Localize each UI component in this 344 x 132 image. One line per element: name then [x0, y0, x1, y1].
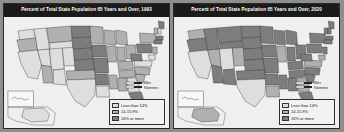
- scale-bar-1993: Miles Kilometers: [124, 79, 164, 92]
- legend-item: Less than 14%: [112, 103, 162, 109]
- legend-label-mid: 14-15.9%: [291, 110, 308, 114]
- scale-bar-2020: Miles Kilometers: [294, 79, 334, 92]
- legend-label-low: Less than 14%: [121, 104, 147, 108]
- legend-label-high: 16% or more: [291, 117, 314, 121]
- map-legend-2020: Less than 14% 14-15.9% 16% or more: [279, 99, 335, 125]
- legend-label-mid: 14-15.9%: [121, 110, 138, 114]
- map-title-bar-1993: Percent of Total State Population 65 Yea…: [4, 4, 169, 17]
- svg-text:Miles: Miles: [144, 81, 152, 85]
- legend-label-high: 16% or more: [121, 117, 144, 121]
- legend-item: 16% or more: [282, 116, 332, 122]
- map-title-1993: Percent of Total State Population 65 Yea…: [21, 8, 152, 13]
- legend-swatch-high: [112, 116, 119, 121]
- legend-item: 14-15.9%: [282, 109, 332, 115]
- legend-swatch-low: [282, 103, 289, 108]
- svg-text:Kilometers: Kilometers: [144, 86, 159, 90]
- legend-item: 14-15.9%: [112, 109, 162, 115]
- map-title-2020: Percent of Total State Population 65 Yea…: [191, 8, 322, 13]
- legend-swatch-mid: [282, 110, 289, 115]
- legend-label-low: Less than 14%: [291, 104, 317, 108]
- two-map-figure: Percent of Total State Population 65 Yea…: [0, 0, 344, 132]
- map-legend-1993: Less than 14% 14-15.9% 16% or more: [109, 99, 165, 125]
- svg-text:Kilometers: Kilometers: [314, 86, 329, 90]
- legend-item: Less than 14%: [282, 103, 332, 109]
- legend-swatch-low: [112, 103, 119, 108]
- map-panel-1993: Percent of Total State Population 65 Yea…: [3, 3, 170, 129]
- map-title-bar-2020: Percent of Total State Population 65 Yea…: [174, 4, 339, 17]
- legend-item: 16% or more: [112, 116, 162, 122]
- svg-text:Miles: Miles: [314, 81, 322, 85]
- legend-swatch-high: [282, 116, 289, 121]
- legend-swatch-mid: [112, 110, 119, 115]
- map-panel-2020: Percent of Total State Population 65 Yea…: [173, 3, 340, 129]
